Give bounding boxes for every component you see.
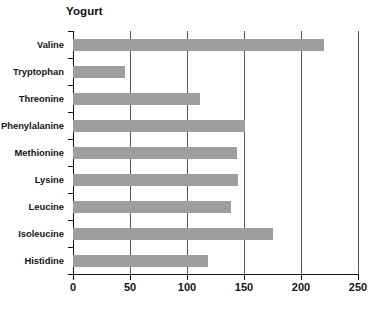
chart-title: Yogurt <box>66 5 103 17</box>
bar-row <box>73 31 358 58</box>
x-axis-ticks-and-labels: 050100150200250 <box>0 274 383 314</box>
x-axis-label-100: 100 <box>178 281 196 293</box>
x-axis-tick-250 <box>358 274 359 280</box>
y-axis-label-leucine: Leucine <box>29 193 64 220</box>
y-axis-label-isoleucine: Isoleucine <box>18 220 64 247</box>
y-axis-label-valine: Valine <box>37 31 64 58</box>
y-axis-label-tryptophan: Tryptophan <box>13 58 64 85</box>
x-axis-label-50: 50 <box>124 281 136 293</box>
x-axis-tick-0 <box>73 274 74 280</box>
x-axis-tick-100 <box>187 274 188 280</box>
x-axis-tick-150 <box>244 274 245 280</box>
x-axis-label-250: 250 <box>349 281 367 293</box>
x-axis-label-150: 150 <box>235 281 253 293</box>
bar-row <box>73 58 358 85</box>
bar-row <box>73 85 358 112</box>
bar-row <box>73 220 358 247</box>
bar-leucine <box>73 201 231 213</box>
bar-row <box>73 247 358 274</box>
y-axis-label-lysine: Lysine <box>35 166 64 193</box>
bar-threonine <box>73 93 200 105</box>
y-axis-label-histidine: Histidine <box>24 247 64 274</box>
x-axis-label-200: 200 <box>292 281 310 293</box>
y-axis-label-phenylalanine: Phenylalanine <box>1 112 64 139</box>
bar-row <box>73 139 358 166</box>
bar-isoleucine <box>73 228 273 240</box>
bar-row <box>73 112 358 139</box>
bar-histidine <box>73 255 208 267</box>
gridline-250 <box>358 31 359 274</box>
y-axis-category-labels: ValineTryptophanThreoninePhenylalanineMe… <box>0 31 73 274</box>
plot-area <box>73 31 358 274</box>
bars-layer <box>73 31 358 274</box>
y-axis-label-methionine: Methionine <box>15 139 64 166</box>
y-axis-label-threonine: Threonine <box>19 85 64 112</box>
bar-valine <box>73 39 324 51</box>
bar-row <box>73 193 358 220</box>
bar-phenylalanine <box>73 120 245 132</box>
x-axis-tick-50 <box>130 274 131 280</box>
bar-lysine <box>73 174 238 186</box>
bar-methionine <box>73 147 237 159</box>
bar-chart: Yogurt ValineTryptophanThreoninePhenylal… <box>0 0 383 314</box>
x-axis-label-0: 0 <box>70 281 76 293</box>
bar-row <box>73 166 358 193</box>
bar-tryptophan <box>73 66 125 78</box>
x-axis-tick-200 <box>301 274 302 280</box>
